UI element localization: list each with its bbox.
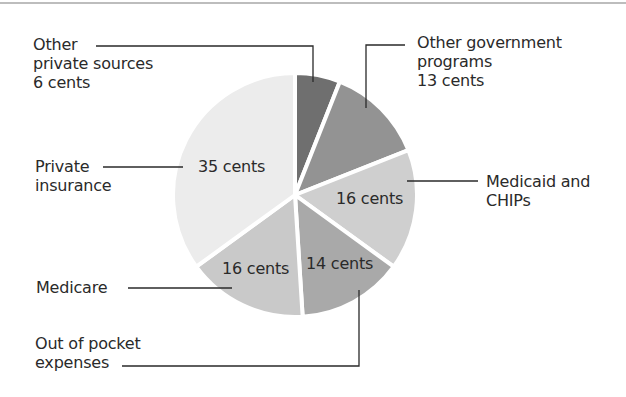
label-private-insurance: Private insurance: [35, 157, 111, 195]
slice-label-out-of-pocket: 14 cents: [306, 254, 373, 273]
label-out-of-pocket-expenses: Out of pocket expenses: [35, 334, 141, 372]
slice-label-medicare: 16 cents: [222, 259, 289, 278]
label-medicaid-and-chips: Medicaid and CHIPs: [486, 172, 590, 210]
slice-label-private-insurance: 35 cents: [198, 157, 265, 176]
label-medicare: Medicare: [36, 278, 107, 297]
label-other-private-sources: Other private sources 6 cents: [33, 35, 153, 92]
label-other-government-programs: Other government programs 13 cents: [417, 33, 562, 90]
slice-label-medicaid: 16 cents: [336, 189, 403, 208]
